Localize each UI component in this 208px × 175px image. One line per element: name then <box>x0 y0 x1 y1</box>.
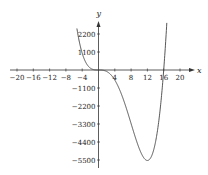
x-tick-label: 8 <box>129 74 133 82</box>
x-axis-arrow-icon <box>189 68 195 72</box>
y-tick-label: −1100 <box>72 85 96 93</box>
y-axis-arrow-icon <box>97 21 101 27</box>
y-axis-label: y <box>96 9 102 18</box>
x-tick-label: −8 <box>61 74 71 82</box>
y-tick-label: 2200 <box>78 31 96 39</box>
y-tick-label: −4400 <box>72 139 96 147</box>
y-tick-label: −2200 <box>72 103 96 111</box>
ticks: −20−16−12−8−44812162022001100−1100−2200−… <box>10 31 185 165</box>
x-tick-label: −20 <box>10 74 25 82</box>
x-tick-label: 12 <box>143 74 152 82</box>
x-tick-label: 16 <box>159 74 168 82</box>
x-tick-label: −4 <box>77 74 88 82</box>
chart: −20−16−12−8−44812162022001100−1100−2200−… <box>0 0 208 175</box>
y-tick-label: −3300 <box>72 121 96 129</box>
y-tick-label: 1100 <box>78 49 96 57</box>
x-tick-label: −16 <box>26 74 41 82</box>
x-tick-label: 20 <box>176 74 185 82</box>
axes <box>10 21 195 168</box>
x-tick-label: −12 <box>42 74 57 82</box>
x-axis-label: x <box>197 66 202 75</box>
y-tick-label: −5500 <box>72 157 96 165</box>
